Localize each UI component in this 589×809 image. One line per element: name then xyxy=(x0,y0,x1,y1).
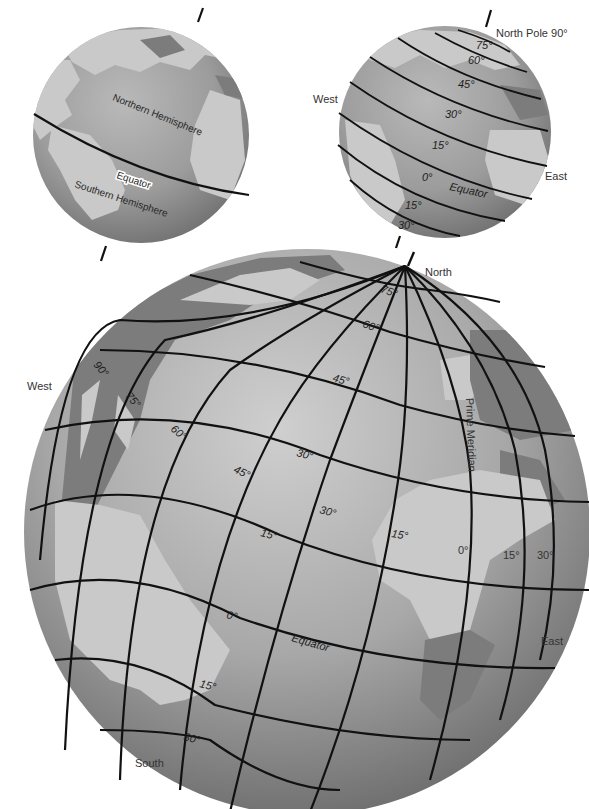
lat-15s-label: 15° xyxy=(405,199,422,211)
axis-top xyxy=(408,252,414,266)
axis-bottom xyxy=(101,246,106,261)
grid-globe: North South West East 75° 60° 45° 30° 15… xyxy=(24,249,589,809)
hemispheres-globe: Northern Hemisphere Equator Equator Sout… xyxy=(30,8,249,261)
globe-illustration: Northern Hemisphere Equator Equator Sout… xyxy=(0,0,589,809)
lon-30e-label: 30° xyxy=(537,549,554,561)
east-label: East xyxy=(545,170,567,182)
west-label: West xyxy=(313,93,338,105)
axis-bottom xyxy=(396,236,400,248)
lat-45-label: 45° xyxy=(458,78,475,90)
lon-15e-label: 15° xyxy=(503,549,520,561)
lat-30s-label: 30° xyxy=(398,219,415,231)
west-label: West xyxy=(27,380,52,392)
lat-75-label: 75° xyxy=(476,39,493,51)
axis-top xyxy=(198,8,203,22)
lat-15-label: 15° xyxy=(432,139,449,151)
axis-top xyxy=(486,10,491,27)
east-label: East xyxy=(541,635,563,647)
north-label: North xyxy=(425,266,452,278)
latitudes-globe: North Pole 90° West East 75° 60° 45° 30°… xyxy=(313,10,568,248)
south-label: South xyxy=(135,757,164,769)
lon-0-label: 0° xyxy=(458,544,469,556)
lat-60-label: 60° xyxy=(468,54,485,66)
lat-30-label: 30° xyxy=(445,108,462,120)
north-pole-label: North Pole 90° xyxy=(496,27,568,39)
lat-0-label: 0° xyxy=(422,171,433,183)
